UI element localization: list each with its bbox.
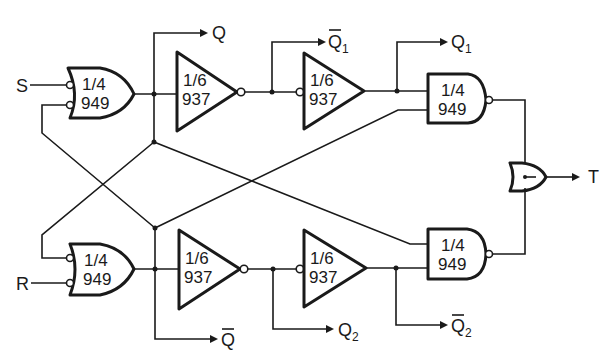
negation-bubble-icon	[240, 265, 248, 273]
output-label-q: Q	[212, 23, 226, 43]
wire-cross-c	[154, 142, 427, 244]
gate-fraction-label: 1/4	[441, 236, 465, 255]
gate-fraction-label: 1/4	[84, 251, 108, 270]
arrow-icon	[318, 38, 326, 46]
output-label-q-bar: Q	[221, 330, 235, 350]
wire-nand-top-out	[493, 100, 525, 166]
inverter-bottom-2: 1/6 937	[296, 230, 366, 307]
output-subscript: 2	[465, 326, 472, 340]
arrow-icon	[200, 29, 208, 37]
gate-part-label: 937	[309, 268, 337, 287]
wire-cross-a	[42, 105, 155, 228]
wire-cross-b	[42, 142, 154, 258]
arrow-icon	[326, 325, 334, 333]
arrow-icon	[440, 38, 448, 46]
output-label-q2: Q	[338, 320, 352, 340]
output-subscript: 1	[342, 42, 349, 56]
gate-part-label: 937	[184, 268, 212, 287]
inverter-bottom-1: 1/6 937	[179, 230, 248, 309]
inverter-top-1: 1/6 937	[177, 52, 245, 131]
gate-part-label: 949	[438, 255, 466, 274]
inverter-top-2: 1/6 937	[296, 53, 364, 129]
output-label-q1-bar: Q	[328, 32, 342, 52]
gate-fraction-label: 1/6	[310, 249, 334, 268]
gate-part-label: 937	[309, 90, 337, 109]
output-subscript: 1	[465, 42, 472, 56]
nand-gate-bottom: 1/4 949	[428, 229, 493, 279]
junction-dot	[153, 226, 158, 231]
output-label-q1: Q	[451, 32, 465, 52]
gate-fraction-label: 1/6	[310, 71, 334, 90]
gate-part-label: 949	[83, 270, 111, 289]
gate-part-label: 949	[81, 94, 109, 113]
logic-circuit-diagram: S 1/4 949 Q 1/6 937 Q 1 1/6 937	[0, 0, 607, 359]
gate-fraction-label: 1/6	[185, 249, 209, 268]
gate-part-label: 949	[438, 100, 466, 119]
or-gate-bottom: 1/4 949	[67, 244, 135, 295]
wire-cross-d	[155, 110, 427, 228]
gate-part-label: 937	[182, 90, 210, 109]
input-label-s: S	[16, 76, 28, 96]
negation-bubble-icon	[486, 97, 493, 104]
output-label-t: T	[588, 167, 599, 187]
arrow-icon	[572, 173, 580, 181]
input-label-r: R	[16, 274, 29, 294]
negation-bubble-icon	[67, 102, 74, 109]
gate-fraction-label: 1/4	[82, 75, 106, 94]
nand-gate-top: 1/4 949	[428, 74, 493, 123]
gate-fraction-label: 1/6	[183, 71, 207, 90]
output-subscript: 2	[352, 330, 359, 344]
negation-bubble-icon	[67, 255, 74, 262]
arrow-icon	[210, 335, 218, 343]
wire-nand-bottom-out	[493, 188, 525, 254]
negation-bubble-icon	[486, 251, 493, 258]
junction-dot	[523, 175, 527, 179]
output-label-q2-bar: Q	[451, 316, 465, 336]
negation-bubble-icon	[67, 280, 74, 287]
arrow-icon	[440, 321, 448, 329]
negation-bubble-icon	[67, 82, 74, 89]
gate-fraction-label: 1/4	[441, 81, 465, 100]
or-gate-top: 1/4 949	[67, 68, 135, 118]
negation-bubble-icon	[237, 88, 245, 96]
